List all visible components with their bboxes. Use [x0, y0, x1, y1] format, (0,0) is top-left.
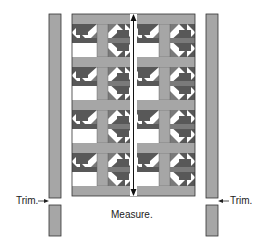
- trim-label-right: Trim.: [230, 196, 252, 206]
- measure-arrow: [130, 14, 137, 196]
- right-border-strip: [206, 14, 218, 236]
- trim-arrow-right: [218, 199, 229, 203]
- left-border-strip: [49, 14, 61, 236]
- trim-label-left: Trim.: [16, 196, 38, 206]
- trim-arrow-left: [38, 199, 49, 203]
- measure-label: Measure.: [111, 210, 153, 220]
